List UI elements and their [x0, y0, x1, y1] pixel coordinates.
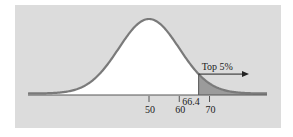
annotation-label: Top 5% [202, 61, 233, 72]
tick-label: 70 [206, 104, 216, 115]
tick-label: 50 [145, 104, 155, 115]
chart-svg: 506066.470 Top 5% [0, 0, 293, 137]
normal-distribution-chart: 506066.470 Top 5% [0, 0, 293, 137]
tick-label: 66.4 [182, 96, 200, 107]
